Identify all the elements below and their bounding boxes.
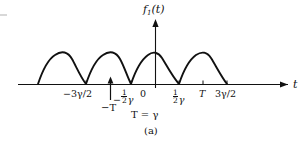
tick-label-minus-3gamma-over-2: −3γ/2 xyxy=(63,89,92,99)
half-fraction-right: 12 xyxy=(173,89,179,104)
waveform-plot xyxy=(0,0,307,142)
tick-label-minus-3gamma-over-2-text: −3γ/2 xyxy=(63,88,92,99)
tick-label-half-gamma: 12γ xyxy=(172,89,184,104)
tick-label-minus-half-gamma: −12γ xyxy=(113,89,133,104)
tick-label-3gamma-over-2: 3γ/2 xyxy=(215,89,236,99)
figure-container: f1(t) t −3γ/2 −12γ 0 12γ T 3γ/2 −T T = γ… xyxy=(0,0,307,142)
half-fraction-left: 12 xyxy=(121,89,127,104)
tick-label-T: T xyxy=(199,89,205,99)
f-axis-arrowhead xyxy=(152,19,158,27)
y-axis-label: f1(t) xyxy=(143,4,165,17)
waveform-curve xyxy=(38,52,227,84)
minus-T-label: −T xyxy=(101,103,116,113)
t-axis-arrowhead xyxy=(280,81,288,87)
x-axis-label: t xyxy=(293,79,297,90)
tick-label-zero: 0 xyxy=(140,89,146,99)
figure-caption: (a) xyxy=(144,126,158,136)
y-axis-label-arg: (t) xyxy=(152,3,165,16)
T-equals-gamma-note: T = γ xyxy=(131,110,158,120)
